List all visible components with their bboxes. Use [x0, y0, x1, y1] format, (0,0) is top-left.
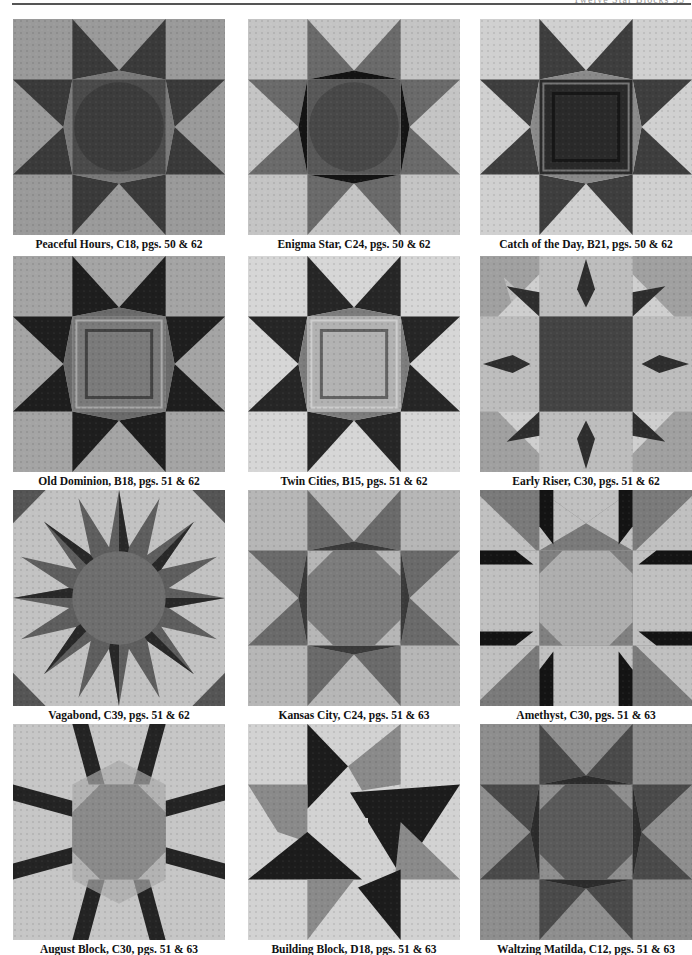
- block-caption: Building Block, D18, pgs. 51 & 63: [248, 943, 460, 955]
- block-caption: Twin Cities, B15, pgs. 51 & 62: [248, 475, 460, 487]
- quilt-block-image: [248, 490, 460, 706]
- block-caption: Waltzing Matilda, C12, pgs. 51 & 63: [480, 943, 692, 955]
- quilt-block-item: Twin Cities, B15, pgs. 51 & 62: [248, 256, 460, 472]
- block-caption: Old Dominion, B18, pgs. 51 & 62: [13, 475, 225, 487]
- quilt-block-image: [13, 19, 225, 235]
- quilt-block-image: [248, 19, 460, 235]
- block-caption: Early Riser, C30, pgs. 51 & 62: [480, 475, 692, 487]
- quilt-block-item: August Block, C30, pgs. 51 & 63: [13, 724, 225, 940]
- quilt-block-image: [480, 724, 692, 940]
- quilt-block-item: Vagabond, C39, pgs. 51 & 62: [13, 490, 225, 706]
- quilt-block-item: Catch of the Day, B21, pgs. 50 & 62: [480, 19, 692, 235]
- quilt-block-image: [480, 490, 692, 706]
- quilt-block-item: Amethyst, C30, pgs. 51 & 63: [480, 490, 692, 706]
- quilt-block-image: [13, 724, 225, 940]
- quilt-block-image: [13, 256, 225, 472]
- block-caption: Catch of the Day, B21, pgs. 50 & 62: [480, 238, 692, 250]
- block-caption: Enigma Star, C24, pgs. 50 & 62: [248, 238, 460, 250]
- quilt-block-image: [248, 724, 460, 940]
- block-caption: Amethyst, C30, pgs. 51 & 63: [480, 709, 692, 721]
- block-caption: Kansas City, C24, pgs. 51 & 63: [248, 709, 460, 721]
- block-caption: August Block, C30, pgs. 51 & 63: [13, 943, 225, 955]
- quilt-block-item: Building Block, D18, pgs. 51 & 63: [248, 724, 460, 940]
- quilt-block-item: Peaceful Hours, C18, pgs. 50 & 62: [13, 19, 225, 235]
- quilt-block-item: Kansas City, C24, pgs. 51 & 63: [248, 490, 460, 706]
- quilt-block-item: Early Riser, C30, pgs. 51 & 62: [480, 256, 692, 472]
- quilt-block-item: Enigma Star, C24, pgs. 50 & 62: [248, 19, 460, 235]
- quilt-block-image: [13, 490, 225, 706]
- quilt-block-item: Waltzing Matilda, C12, pgs. 51 & 63: [480, 724, 692, 940]
- quilt-block-item: Old Dominion, B18, pgs. 51 & 62: [13, 256, 225, 472]
- quilt-block-image: [480, 256, 692, 472]
- quilt-block-image: [248, 256, 460, 472]
- quilt-block-image: [480, 19, 692, 235]
- block-caption: Vagabond, C39, pgs. 51 & 62: [13, 709, 225, 721]
- block-caption: Peaceful Hours, C18, pgs. 50 & 62: [13, 238, 225, 250]
